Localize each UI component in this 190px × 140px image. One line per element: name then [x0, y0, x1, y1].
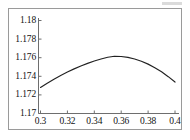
x-tick-label-2: 0.34: [82, 117, 106, 127]
x-tick-label-3: 0.36: [109, 117, 133, 127]
chart-figure: 1.18 1.178 1.176 1.174 1.172 1.17 0.3 0.…: [0, 0, 190, 140]
y-tick-label-3: 1.174: [5, 72, 36, 82]
y-tick-label-1: 1.178: [5, 35, 36, 45]
y-tick-label-4: 1.172: [5, 90, 36, 100]
y-tick-label-2: 1.176: [5, 53, 36, 63]
x-tick-label-5: 0.4: [165, 117, 185, 127]
y-tick-label-0: 1.18: [8, 16, 36, 26]
x-tick-label-1: 0.32: [55, 117, 79, 127]
axis-spines: [39, 18, 180, 114]
x-tick-label-0: 0.3: [31, 117, 51, 127]
x-tick-label-4: 0.38: [136, 117, 160, 127]
data-curve: [41, 56, 176, 87]
